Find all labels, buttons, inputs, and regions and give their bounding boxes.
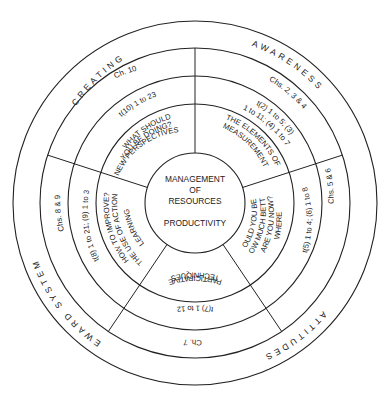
reference-label-left: t(8) 1 to 21; (9) 1 to 3 <box>80 189 100 263</box>
chapter-label-left: Chs. 8 & 9 <box>53 195 66 233</box>
management-of-resources-wheel-diagram: MANAGEMENT OF RESOURCES PRODUCTIVITY CRE… <box>0 0 387 406</box>
divider-lower-right <box>223 245 282 332</box>
question-top-right-line-1: THE ELEMENTS OF <box>225 113 283 168</box>
center-line-3: RESOURCES <box>168 196 221 206</box>
chapter-label-right: Chs. 5 & 6 <box>323 167 335 204</box>
divider-left <box>48 155 148 187</box>
center-label: MANAGEMENT OF RESOURCES PRODUCTIVITY <box>164 174 227 228</box>
reference-label-bottom: t(7) 1 to 12 <box>176 304 213 314</box>
chapter-label-bottom: Ch. 7 <box>183 338 202 348</box>
center-line-4: PRODUCTIVITY <box>164 218 227 228</box>
center-line-2: OF <box>189 185 201 195</box>
center-line-1: MANAGEMENT <box>165 174 225 184</box>
reference-label-right: t(5) 1 to 4; (6) 1 to 8 <box>300 186 314 254</box>
outer-label-creating: CREATING <box>69 52 126 108</box>
